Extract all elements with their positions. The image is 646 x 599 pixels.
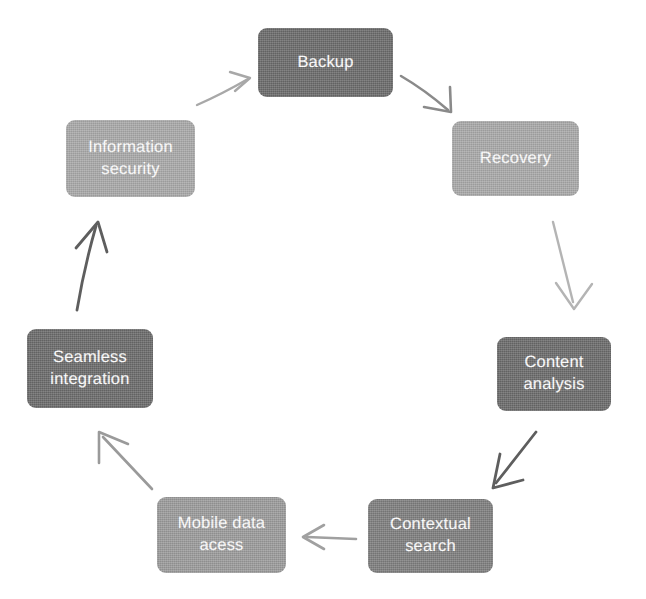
arrow-security-to-backup <box>197 72 250 105</box>
arrow-recovery-to-content <box>553 222 592 309</box>
node-content-analysis[interactable]: Content analysis <box>497 337 611 411</box>
node-information-security[interactable]: Information security <box>66 120 195 197</box>
node-recovery-label: Recovery <box>480 148 551 170</box>
node-information-security-label: Information security <box>88 137 173 181</box>
arrow-seamless-to-security <box>76 222 107 310</box>
node-contextual-search-label: Contextual search <box>390 514 471 558</box>
node-content-analysis-label: Content analysis <box>523 352 584 396</box>
node-backup[interactable]: Backup <box>258 28 393 97</box>
node-mobile-data-acess[interactable]: Mobile data acess <box>157 497 286 573</box>
arrow-contextual-to-mobile <box>303 525 356 549</box>
arrow-mobile-to-seamless <box>99 432 152 489</box>
node-backup-label: Backup <box>297 52 353 74</box>
arrow-content-to-contextual <box>493 432 536 488</box>
arrow-backup-to-recovery <box>401 76 451 112</box>
node-recovery[interactable]: Recovery <box>452 121 579 196</box>
node-seamless-integration-label: Seamless integration <box>50 347 129 391</box>
cycle-diagram-canvas: Backup Recovery Content analysis Context… <box>0 0 646 599</box>
node-contextual-search[interactable]: Contextual search <box>368 499 493 573</box>
node-mobile-data-acess-label: Mobile data acess <box>178 513 266 557</box>
node-seamless-integration[interactable]: Seamless integration <box>27 329 153 408</box>
